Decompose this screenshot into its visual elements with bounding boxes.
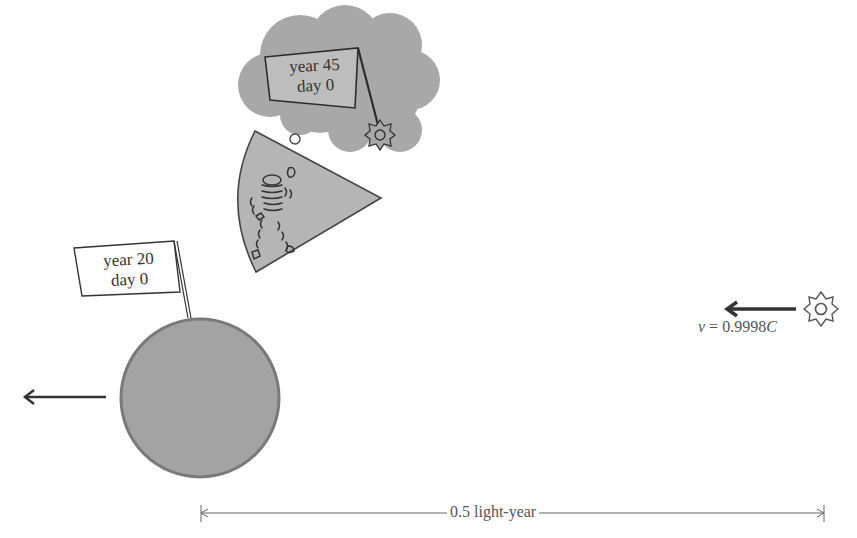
velocity-equals: = [709, 318, 718, 335]
velocity-symbol: v [698, 318, 705, 335]
spaceship-sector [238, 131, 381, 272]
distance-label: 0.5 light-year [447, 503, 539, 521]
thought-flag-label: year 45 day 0 [274, 54, 356, 98]
star-icon [804, 292, 838, 326]
planet-flag-label: year 20 day 0 [83, 248, 175, 293]
velocity-value: 0.9998 [722, 318, 766, 335]
thought-flag-line2: day 0 [275, 74, 356, 98]
velocity-unit: C [766, 318, 777, 335]
planet [121, 319, 279, 477]
velocity-label: v = 0.9998C [698, 318, 777, 336]
planet-velocity-arrow [25, 390, 106, 404]
star-icon [365, 120, 395, 150]
star-velocity-arrow [727, 302, 796, 316]
